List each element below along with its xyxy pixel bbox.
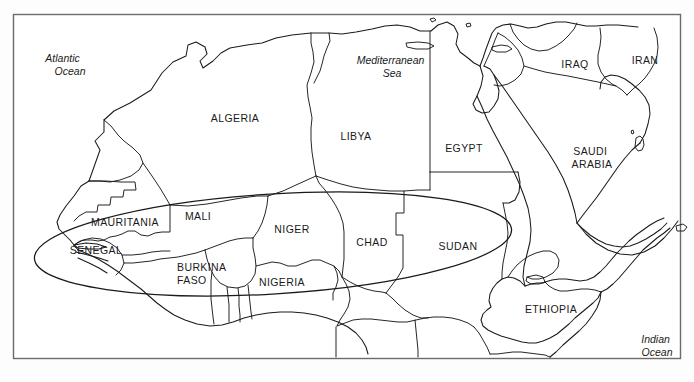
map-canvas: ALGERIA LIBYA EGYPT IRAQ IRAN SAUDI ARAB… [0,0,694,382]
country-label-chad: CHAD [356,236,387,248]
country-label-algeria: ALGERIA [211,112,259,124]
country-label-iraq: IRAQ [561,58,588,70]
map-figure: ALGERIA LIBYA EGYPT IRAQ IRAN SAUDI ARAB… [0,0,694,382]
country-label-ethiopia: ETHIOPIA [525,303,577,315]
water-label-indian-ocean: Indian Ocean [641,333,673,358]
country-label-mauritania: MAURITANIA [91,216,159,228]
country-label-sudan: SUDAN [439,240,478,252]
country-label-nigeria: NIGERIA [259,276,305,288]
country-label-iran: IRAN [632,54,659,66]
country-label-senegal: SENEGAL [70,244,122,256]
country-label-libya: LIBYA [341,130,372,142]
country-label-saudi-arabia: SAUDI ARABIA [572,145,613,170]
country-label-niger: NIGER [274,223,309,235]
country-label-egypt: EGYPT [445,142,483,154]
country-label-mali: MALI [185,210,211,222]
